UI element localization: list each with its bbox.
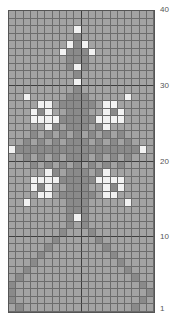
chart-cell xyxy=(82,49,89,57)
chart-cell xyxy=(74,252,81,260)
chart-cell xyxy=(132,146,139,154)
chart-cell xyxy=(38,267,45,275)
chart-cell xyxy=(118,71,125,79)
chart-cell xyxy=(74,214,81,222)
chart-cell xyxy=(103,214,110,222)
chart-cell xyxy=(82,289,89,297)
chart-cell xyxy=(125,289,132,297)
chart-cell xyxy=(89,49,96,57)
chart-cell xyxy=(53,297,60,305)
chart-cell xyxy=(38,252,45,260)
chart-cell xyxy=(132,64,139,72)
chart-cell xyxy=(24,86,31,94)
chart-cell xyxy=(45,131,52,139)
chart-cell xyxy=(38,184,45,192)
chart-cell xyxy=(53,177,60,185)
chart-cell xyxy=(140,26,147,34)
chart-cell xyxy=(74,64,81,72)
chart-cell xyxy=(31,207,38,215)
chart-cell xyxy=(53,94,60,102)
chart-cell xyxy=(53,64,60,72)
chart-cell xyxy=(111,101,118,109)
chart-cell xyxy=(96,19,103,27)
chart-cell xyxy=(67,259,74,267)
chart-cell xyxy=(118,274,125,282)
chart-cell xyxy=(9,109,16,117)
chart-cell xyxy=(24,131,31,139)
chart-cell xyxy=(118,184,125,192)
chart-cell xyxy=(111,86,118,94)
chart-cell xyxy=(125,184,132,192)
chart-cell xyxy=(9,214,16,222)
chart-cell xyxy=(96,124,103,132)
chart-cell xyxy=(147,244,154,252)
chart-cell xyxy=(89,199,96,207)
knitting-chart-grid xyxy=(8,10,155,313)
chart-cell xyxy=(67,237,74,245)
chart-cell xyxy=(82,79,89,87)
chart-cell xyxy=(31,139,38,147)
chart-cell xyxy=(82,154,89,162)
chart-cell xyxy=(38,162,45,170)
chart-cell xyxy=(16,177,23,185)
chart-cell xyxy=(125,229,132,237)
chart-cell xyxy=(125,222,132,230)
chart-cell xyxy=(147,124,154,132)
chart-cell xyxy=(16,124,23,132)
chart-cell xyxy=(125,94,132,102)
chart-cell xyxy=(53,214,60,222)
chart-cell xyxy=(103,19,110,27)
chart-cell xyxy=(60,146,67,154)
chart-cell xyxy=(111,282,118,290)
row-label: 10 xyxy=(160,233,169,241)
chart-cell xyxy=(118,49,125,57)
chart-cell xyxy=(74,199,81,207)
chart-cell xyxy=(45,162,52,170)
chart-cell xyxy=(89,131,96,139)
chart-cell xyxy=(9,177,16,185)
chart-cell xyxy=(38,177,45,185)
chart-cell xyxy=(45,154,52,162)
chart-cell xyxy=(89,154,96,162)
chart-cell xyxy=(45,79,52,87)
chart-cell xyxy=(111,169,118,177)
chart-cell xyxy=(24,177,31,185)
chart-cell xyxy=(89,139,96,147)
chart-cell xyxy=(24,94,31,102)
chart-cell xyxy=(132,207,139,215)
chart-cell xyxy=(140,304,147,312)
chart-cell xyxy=(89,79,96,87)
chart-cell xyxy=(16,259,23,267)
chart-cell xyxy=(132,244,139,252)
chart-cell xyxy=(140,146,147,154)
chart-cell xyxy=(53,304,60,312)
chart-cell xyxy=(89,124,96,132)
chart-cell xyxy=(125,169,132,177)
chart-cell xyxy=(16,49,23,57)
chart-cell xyxy=(147,86,154,94)
chart-cell xyxy=(31,184,38,192)
chart-cell xyxy=(140,116,147,124)
chart-cell xyxy=(111,154,118,162)
chart-cell xyxy=(67,289,74,297)
chart-cell xyxy=(60,214,67,222)
chart-cell xyxy=(125,252,132,260)
chart-cell xyxy=(147,274,154,282)
chart-cell xyxy=(9,26,16,34)
chart-cell xyxy=(89,19,96,27)
chart-cell xyxy=(132,154,139,162)
chart-cell xyxy=(38,41,45,49)
chart-cell xyxy=(9,154,16,162)
chart-cell xyxy=(147,162,154,170)
chart-cell xyxy=(53,244,60,252)
chart-cell xyxy=(125,259,132,267)
chart-cell xyxy=(9,94,16,102)
chart-cell xyxy=(147,11,154,19)
chart-cell xyxy=(45,282,52,290)
chart-cell xyxy=(147,101,154,109)
chart-cell xyxy=(53,162,60,170)
chart-cell xyxy=(60,34,67,42)
chart-cell xyxy=(140,214,147,222)
chart-cell xyxy=(31,282,38,290)
chart-cell xyxy=(38,259,45,267)
